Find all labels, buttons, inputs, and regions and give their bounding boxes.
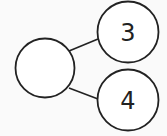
whole-circle	[16, 39, 75, 98]
number-bond-diagram: 3 4	[0, 0, 167, 136]
part-value-top: 3	[120, 19, 135, 47]
connector-top	[69, 39, 98, 51]
part-value-bottom: 4	[120, 87, 135, 115]
connector-bottom	[69, 88, 98, 99]
